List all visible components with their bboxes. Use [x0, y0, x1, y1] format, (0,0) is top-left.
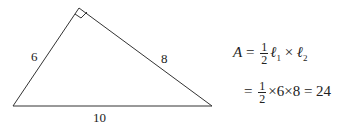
- calculation-result: ×6×8 = 24: [268, 83, 331, 99]
- equals-sign: =: [244, 83, 252, 99]
- side-label-8: 8: [161, 51, 168, 67]
- fraction-half: 12: [258, 80, 266, 105]
- equals-sign: =: [246, 44, 254, 60]
- area-formula: A = 12ℓ1 × ℓ2: [233, 41, 308, 66]
- area-symbol: A: [233, 44, 242, 60]
- triangle: [13, 8, 212, 106]
- denominator: 2: [258, 93, 266, 105]
- times-sign: ×: [285, 44, 293, 60]
- area-calculation: = 12×6×8 = 24: [244, 80, 331, 105]
- side-label-6: 6: [31, 49, 38, 65]
- side-label-10: 10: [93, 110, 106, 126]
- fraction-half: 12: [260, 41, 268, 66]
- subscript-2: 2: [303, 53, 308, 63]
- denominator: 2: [260, 54, 268, 66]
- subscript-1: 1: [276, 53, 281, 63]
